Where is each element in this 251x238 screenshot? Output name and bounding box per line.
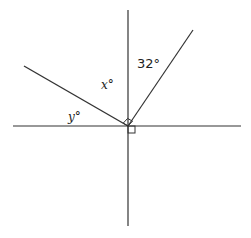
angle-diagram: 32° x° y° bbox=[0, 0, 251, 238]
right-ray bbox=[128, 30, 193, 126]
angle-label-32: 32° bbox=[137, 56, 160, 71]
angle-label-y: y° bbox=[67, 110, 81, 124]
right-angle-marker-axes bbox=[128, 126, 135, 133]
angle-label-x: x° bbox=[101, 78, 114, 92]
